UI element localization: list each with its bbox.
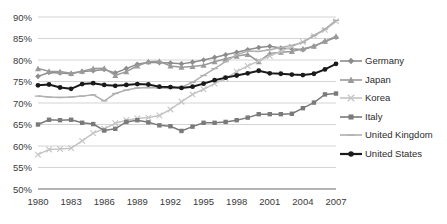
data-point-marker bbox=[113, 83, 118, 88]
data-point-marker bbox=[223, 120, 227, 124]
legend-item-korea[interactable]: Korea bbox=[340, 89, 447, 108]
data-point-marker bbox=[323, 67, 328, 72]
legend-label-united-states: United States bbox=[365, 149, 422, 159]
x-axis-tick-label: 2001 bbox=[259, 196, 280, 207]
series-japan bbox=[35, 33, 339, 78]
data-point-marker bbox=[312, 71, 317, 76]
data-point-marker bbox=[157, 123, 161, 127]
data-point-marker bbox=[35, 74, 41, 80]
legend-marker-cross-icon bbox=[340, 91, 362, 105]
data-point-marker bbox=[124, 83, 129, 88]
y-axis-tick-label: 90% bbox=[13, 12, 33, 23]
data-point-marker bbox=[47, 82, 52, 87]
data-point-marker bbox=[80, 82, 85, 87]
data-point-marker bbox=[234, 73, 239, 78]
legend-item-italy[interactable]: Italy bbox=[340, 108, 447, 127]
legend-label-italy: Italy bbox=[365, 112, 382, 122]
data-point-marker bbox=[256, 68, 261, 73]
legend-marker-diamond-icon bbox=[340, 54, 362, 68]
y-axis-tick-label: 80% bbox=[13, 55, 33, 66]
y-axis-tick-label: 70% bbox=[13, 98, 33, 109]
data-point-marker bbox=[323, 92, 327, 96]
series-united-states bbox=[36, 61, 339, 91]
data-point-marker bbox=[334, 91, 338, 95]
data-point-marker bbox=[102, 128, 106, 132]
legend-label-japan: Japan bbox=[365, 75, 391, 85]
data-point-marker bbox=[135, 82, 140, 87]
series-united-kingdom bbox=[35, 20, 339, 100]
x-axis-tick-label: 1998 bbox=[226, 196, 247, 207]
data-point-marker bbox=[279, 112, 283, 116]
data-point-marker bbox=[58, 118, 62, 122]
data-point-marker bbox=[301, 106, 305, 110]
data-point-marker bbox=[348, 114, 353, 119]
data-point-marker bbox=[168, 85, 173, 90]
data-point-marker bbox=[146, 82, 151, 87]
legend-item-japan[interactable]: Japan bbox=[340, 71, 447, 90]
x-axis-tick-label: 1995 bbox=[193, 196, 214, 207]
data-point-marker bbox=[201, 86, 207, 92]
data-point-marker bbox=[257, 112, 261, 116]
data-point-marker bbox=[245, 63, 251, 69]
data-point-marker bbox=[146, 120, 150, 124]
legend-item-united-states[interactable]: United States bbox=[340, 145, 447, 164]
legend-label-germany: Germany bbox=[365, 56, 404, 66]
data-point-marker bbox=[35, 152, 41, 158]
data-series-group bbox=[35, 19, 339, 158]
data-point-marker bbox=[312, 100, 316, 104]
data-point-marker bbox=[201, 57, 207, 63]
legend-item-united-kingdom[interactable]: United Kingdom bbox=[340, 126, 447, 145]
data-point-marker bbox=[91, 122, 95, 126]
data-point-marker bbox=[201, 81, 206, 86]
legend-marker-circle-icon bbox=[340, 147, 362, 161]
legend-marker-triangle-icon bbox=[340, 73, 362, 87]
data-point-marker bbox=[348, 151, 354, 157]
data-point-marker bbox=[334, 61, 339, 66]
y-axis-tick-label: 55% bbox=[13, 162, 33, 173]
legend-marker-square-icon bbox=[340, 110, 362, 124]
legend-marker-dash-icon bbox=[340, 128, 362, 142]
data-point-marker bbox=[179, 99, 185, 105]
data-point-marker bbox=[348, 58, 354, 64]
y-axis-tick-label: 75% bbox=[13, 76, 33, 87]
data-point-marker bbox=[234, 118, 238, 122]
data-point-marker bbox=[113, 127, 117, 131]
data-point-marker bbox=[179, 86, 184, 91]
data-point-marker bbox=[212, 121, 216, 125]
chart-legend: Germany Japan Korea Italy United Kingdom… bbox=[340, 52, 447, 163]
data-point-marker bbox=[102, 83, 107, 88]
data-point-marker bbox=[268, 112, 272, 116]
x-axis-tick-label: 1980 bbox=[27, 196, 48, 207]
data-point-marker bbox=[58, 85, 63, 90]
gridlines bbox=[38, 17, 336, 189]
x-axis-tick-labels: 1980198319861989199219951998200120042007 bbox=[27, 196, 346, 207]
data-point-marker bbox=[246, 115, 250, 119]
data-point-marker bbox=[69, 86, 74, 91]
data-point-marker bbox=[201, 121, 205, 125]
data-point-marker bbox=[179, 129, 183, 133]
y-axis-tick-labels: 90%85%80%75%70%65%60%55%50% bbox=[13, 12, 33, 195]
y-axis-tick-label: 50% bbox=[13, 184, 33, 195]
y-axis-tick-label: 60% bbox=[13, 141, 33, 152]
data-point-marker bbox=[190, 84, 195, 89]
legend-label-korea: Korea bbox=[365, 93, 390, 103]
data-point-marker bbox=[245, 71, 250, 76]
data-point-marker bbox=[168, 124, 172, 128]
data-point-marker bbox=[212, 78, 217, 83]
data-point-marker bbox=[289, 72, 294, 77]
legend-label-united-kingdom: United Kingdom bbox=[365, 130, 433, 140]
data-point-marker bbox=[135, 118, 139, 122]
data-point-marker bbox=[79, 138, 85, 144]
y-axis-tick-label: 85% bbox=[13, 33, 33, 44]
data-point-marker bbox=[256, 45, 262, 51]
data-point-marker bbox=[168, 107, 174, 113]
x-axis-tick-label: 1986 bbox=[94, 196, 115, 207]
data-point-marker bbox=[300, 73, 305, 78]
series-line bbox=[38, 20, 336, 100]
data-point-marker bbox=[80, 121, 84, 125]
data-point-marker bbox=[157, 84, 162, 89]
data-point-marker bbox=[267, 43, 273, 49]
data-point-marker bbox=[36, 83, 41, 88]
legend-item-germany[interactable]: Germany bbox=[340, 52, 447, 71]
data-point-marker bbox=[124, 120, 128, 124]
